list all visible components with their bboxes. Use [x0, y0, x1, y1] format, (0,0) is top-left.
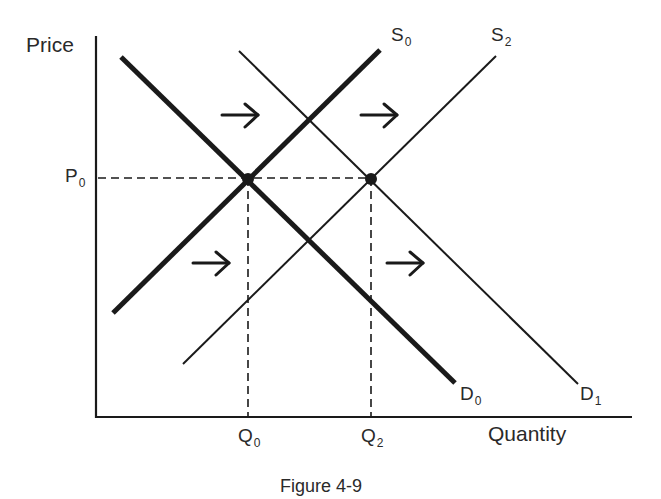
demand-curve-d1 — [239, 51, 578, 384]
supply-curve-s2 — [183, 56, 496, 364]
q0-tick-label: Q0 — [238, 425, 260, 450]
q2-tick-label: Q2 — [361, 425, 383, 450]
s0-curve-label: S0 — [391, 24, 411, 49]
equilibrium-point-e0 — [242, 173, 254, 185]
d1-curve-label: D1 — [580, 383, 601, 408]
d0-curve-label: D0 — [460, 383, 481, 408]
right-arrow-icon — [361, 104, 397, 127]
quantity-axis-label: Quantity — [488, 422, 566, 446]
right-arrow-icon — [387, 252, 423, 275]
s2-curve-label: S2 — [491, 24, 511, 49]
figure-caption: Figure 4-9 — [280, 476, 362, 497]
price-axis-label: Price — [26, 33, 74, 57]
right-arrow-icon — [222, 104, 258, 127]
demand-curve-d0 — [121, 57, 455, 383]
equilibrium-point-e2 — [365, 173, 377, 185]
p0-tick-label: P0 — [65, 165, 85, 190]
right-arrow-icon — [193, 252, 229, 275]
